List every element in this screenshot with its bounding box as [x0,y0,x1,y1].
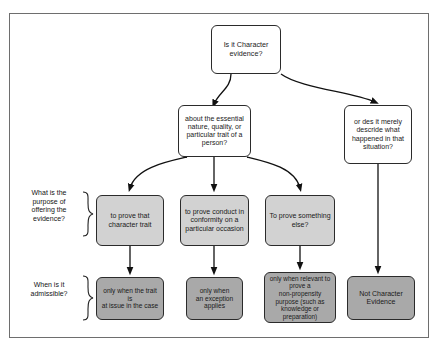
diagram-canvas: Is it Character evidence? about the esse… [0,0,439,350]
node-not-character-evidence[interactable]: Not Character Evidence [347,276,415,320]
node-admissible-exception-applies-label: only when an exception applies [196,287,233,310]
node-admissible-exception-applies[interactable]: only when an exception applies [186,277,243,320]
node-purpose-conduct-in-conformity-label: to prove conduct in conformity on a part… [185,208,244,233]
node-not-character-evidence-label: Not Character Evidence [359,290,403,307]
node-admissible-non-propensity-purpose-label: only when relevant to prove a non-propen… [270,275,330,320]
node-purpose-prove-something-else-label: To prove something else? [269,212,330,229]
node-admissible-trait-at-issue[interactable]: only when the trait is at issue in the c… [96,277,164,320]
node-purpose-conduct-in-conformity[interactable]: to prove conduct in conformity on a part… [180,195,249,246]
node-purpose-prove-character-trait-label: to prove that character trait [109,212,152,229]
node-branch-essential-nature-label: about the essential nature, quality, or … [185,115,244,148]
node-root-question-label: Is it Character evidence? [224,41,269,58]
node-purpose-prove-something-else[interactable]: To prove something else? [265,195,335,246]
node-admissible-trait-at-issue-label: only when the trait is at issue in the c… [100,287,160,310]
node-branch-describes-situation[interactable]: or des it merely descride what happened … [344,105,412,164]
node-root-question[interactable]: Is it Character evidence? [211,25,281,74]
node-branch-describes-situation-label: or des it merely descride what happened … [352,118,404,151]
node-purpose-prove-character-trait[interactable]: to prove that character trait [96,195,164,246]
label-admissible-question: When is it admissible? [18,281,80,298]
node-admissible-non-propensity-purpose[interactable]: only when relevant to prove a non-propen… [264,272,336,323]
label-purpose-question: What is the purpose of offering the evid… [18,189,80,223]
node-branch-essential-nature[interactable]: about the essential nature, quality, or … [178,105,251,157]
